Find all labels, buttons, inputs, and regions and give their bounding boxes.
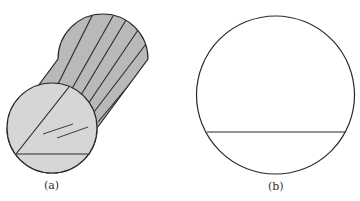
section-circle	[197, 16, 355, 174]
panel-b-circle	[197, 16, 355, 174]
panel-a-cylinder	[7, 14, 150, 173]
panel-a-label: (a)	[44, 179, 59, 192]
cylinder-front-face	[7, 83, 97, 173]
panel-b-label: (b)	[268, 180, 284, 193]
figure-canvas	[0, 0, 360, 201]
